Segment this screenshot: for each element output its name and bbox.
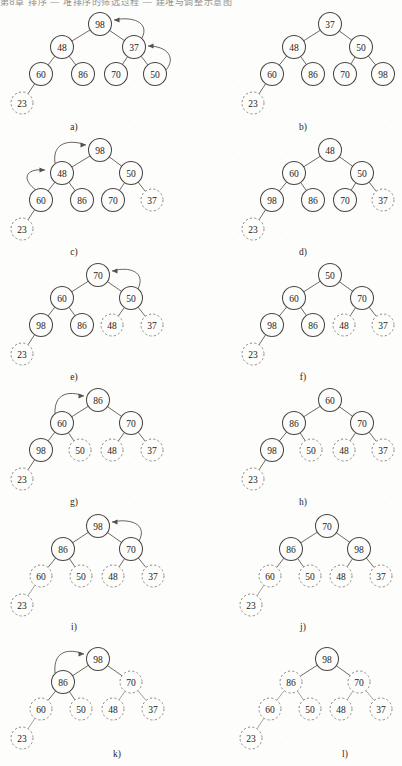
tree-edge [69,182,75,191]
node-value-label: 23 [246,601,256,611]
tree-node-f-60: 60 [283,287,306,310]
tree-edge [138,182,145,191]
tree-node-a-86: 86 [72,63,95,86]
tree-node-f-23: 23 [242,343,264,365]
tree-node-e-50: 50 [120,287,143,310]
tree-edge [48,307,55,316]
tree-node-l-48: 48 [330,698,352,720]
tree-node-c-48: 48 [51,162,74,185]
tree-node-l-86: 86 [280,671,302,693]
binary-tree-figure-canvas: 9848376086705023374850608670982398485060… [0,0,402,766]
panel-caption-f: f) [283,372,323,382]
tree-edge [138,558,146,568]
tree-edge [141,56,148,65]
tree-node-j-86: 86 [280,538,303,561]
tree-node-f-48: 48 [333,314,355,336]
tree-edge [277,691,285,701]
node-value-label: 98 [322,655,332,665]
tree-panel-l: 9886706050483723 [240,648,392,750]
tree-node-i-60: 60 [30,565,52,587]
tree-edge [304,281,321,292]
figure-page: 第8章 排序 — 堆排序的筛选过程 — 建堆与调整示意图 98483760867… [0,0,402,766]
node-value-label: 86 [58,678,68,688]
node-value-label: 60 [36,572,46,582]
tree-node-g-50: 50 [69,439,91,461]
tree-edge [301,307,307,315]
tree-node-b-50: 50 [350,36,373,59]
tree-node-b-37: 37 [319,13,342,36]
tree-node-d-48: 48 [319,139,342,162]
tree-edge [110,30,125,40]
tree-node-i-50: 50 [70,565,92,587]
node-value-label: 48 [339,446,349,456]
tree-edge [350,308,356,316]
tree-node-h-60: 60 [319,389,342,412]
panel-caption-l: l) [325,749,365,759]
node-value-label: 60 [265,572,275,582]
node-value-label: 50 [76,572,86,582]
tree-edge [336,533,349,543]
node-value-label: 37 [325,20,335,30]
node-value-label: 48 [107,446,117,456]
node-value-label: 98 [378,70,388,80]
node-value-label: 70 [340,70,350,80]
tree-edge [138,307,145,316]
tree-edge [119,183,124,191]
node-value-label: 60 [57,419,67,429]
node-value-label: 70 [126,419,136,429]
tree-edge [300,433,305,441]
node-value-label: 50 [76,705,86,715]
tree-node-h-70: 70 [351,412,374,435]
tree-node-b-86: 86 [302,63,325,86]
node-value-label: 23 [248,99,258,109]
tree-edge [69,307,75,316]
tree-edge [304,156,321,167]
tree-node-k-23: 23 [11,727,33,749]
tree-edge [28,460,35,470]
tree-node-i-86: 86 [52,538,75,561]
tree-edge [28,335,35,345]
tree-node-l-70: 70 [348,671,370,693]
node-value-label: 50 [150,70,160,80]
node-value-label: 37 [378,321,388,331]
tree-node-i-23: 23 [11,594,33,616]
node-value-label: 98 [267,321,277,331]
tree-panel-h: 6086709850483723 [242,389,394,491]
node-value-label: 70 [340,196,350,206]
node-value-label: 86 [289,419,299,429]
tree-edge [259,460,266,470]
node-value-label: 50 [305,572,315,582]
tree-node-g-70: 70 [120,412,143,435]
tree-edge [48,56,55,65]
tree-node-g-86: 86 [87,389,110,412]
tree-node-h-50: 50 [300,439,322,461]
tree-node-a-50: 50 [144,63,167,86]
node-value-label: 48 [336,572,346,582]
swap-arrow-head [114,17,120,22]
node-value-label: 70 [126,545,136,555]
tree-edge [301,56,307,64]
node-value-label: 23 [248,475,258,485]
node-value-label: 86 [308,70,318,80]
tree-edge [257,718,264,729]
node-value-label: 86 [58,545,68,555]
node-value-label: 48 [57,169,67,179]
tree-edge [68,433,74,441]
tree-node-j-23: 23 [240,594,262,616]
tree-edge [297,691,303,700]
node-value-label: 86 [286,545,296,555]
node-value-label: 48 [108,705,118,715]
tree-edge [107,282,121,292]
panel-caption-d: d) [283,247,323,257]
tree-edge [259,210,266,220]
panel-caption-h: h) [283,497,323,507]
node-value-label: 23 [17,734,27,744]
tree-edge [138,432,145,441]
tree-panel-i: 9886706050483723 [11,515,164,617]
tree-node-h-23: 23 [242,468,264,490]
node-value-label: 48 [325,146,335,156]
tree-node-c-23: 23 [11,218,33,240]
tree-edge [304,406,321,417]
node-value-label: 60 [265,705,275,715]
tree-node-l-60: 60 [259,698,281,720]
